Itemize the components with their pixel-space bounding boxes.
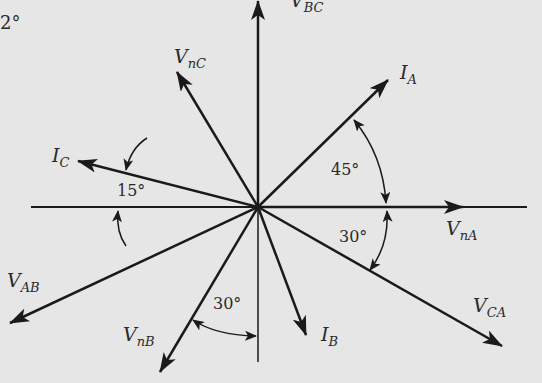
origin-point xyxy=(255,204,261,210)
phasor-V_nC xyxy=(177,72,258,207)
angle-arc-15-lower xyxy=(118,211,126,246)
label-V_CA: VCA xyxy=(473,296,506,319)
angle-arc-15-upper xyxy=(126,138,147,170)
corner-fragment: 2° xyxy=(0,12,20,33)
phasor-V_nB xyxy=(160,207,258,372)
angle-label-45: 45° xyxy=(331,162,359,178)
angle-arc-30-lower xyxy=(193,320,256,336)
label-V_nC: VnC xyxy=(174,47,206,70)
phasor-diagram xyxy=(0,0,542,383)
phasor-I_C xyxy=(78,161,258,207)
label-I_A: IA xyxy=(400,63,417,86)
label-V_nA: VnA xyxy=(446,219,478,242)
label-I_C: IC xyxy=(52,146,69,169)
angle-label-30-right: 30° xyxy=(339,229,367,245)
angle-label-30-lower: 30° xyxy=(213,296,241,312)
angle-label-15: 15° xyxy=(117,183,145,199)
label-I_B: IB xyxy=(321,325,338,348)
label-V_BC: VBC xyxy=(290,0,323,14)
phasor-I_A xyxy=(258,80,388,207)
phasor-I_B xyxy=(258,207,306,335)
label-V_nB: VnB xyxy=(123,325,155,348)
label-V_AB: VAB xyxy=(7,271,40,294)
angle-arc-30-right xyxy=(370,211,387,270)
